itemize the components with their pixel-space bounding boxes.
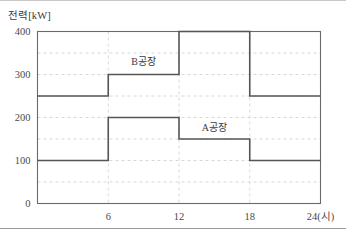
x-tick-label: 24(시) bbox=[307, 211, 335, 223]
y-tick-label: 300 bbox=[15, 69, 31, 80]
series-label: B공장 bbox=[131, 56, 156, 67]
y-tick-label: 200 bbox=[15, 112, 31, 123]
x-tick-label: 18 bbox=[245, 211, 256, 222]
y-tick-label: 100 bbox=[15, 155, 31, 166]
x-tick-label: 6 bbox=[106, 211, 111, 222]
y-tick-label-group: 0100200300400 bbox=[15, 26, 31, 209]
y-tick-label: 400 bbox=[15, 26, 31, 37]
x-tick-label: 12 bbox=[174, 211, 185, 222]
x-tick-label-group: 6121824(시) bbox=[106, 211, 335, 223]
y-tick-label: 0 bbox=[25, 198, 30, 209]
series-label: A공장 bbox=[202, 122, 227, 133]
chart-figure: 전력[kW] 0100200300400 6121824(시) B공장A공장 bbox=[0, 0, 346, 239]
step-chart-plot: 0100200300400 6121824(시) B공장A공장 bbox=[0, 0, 346, 239]
